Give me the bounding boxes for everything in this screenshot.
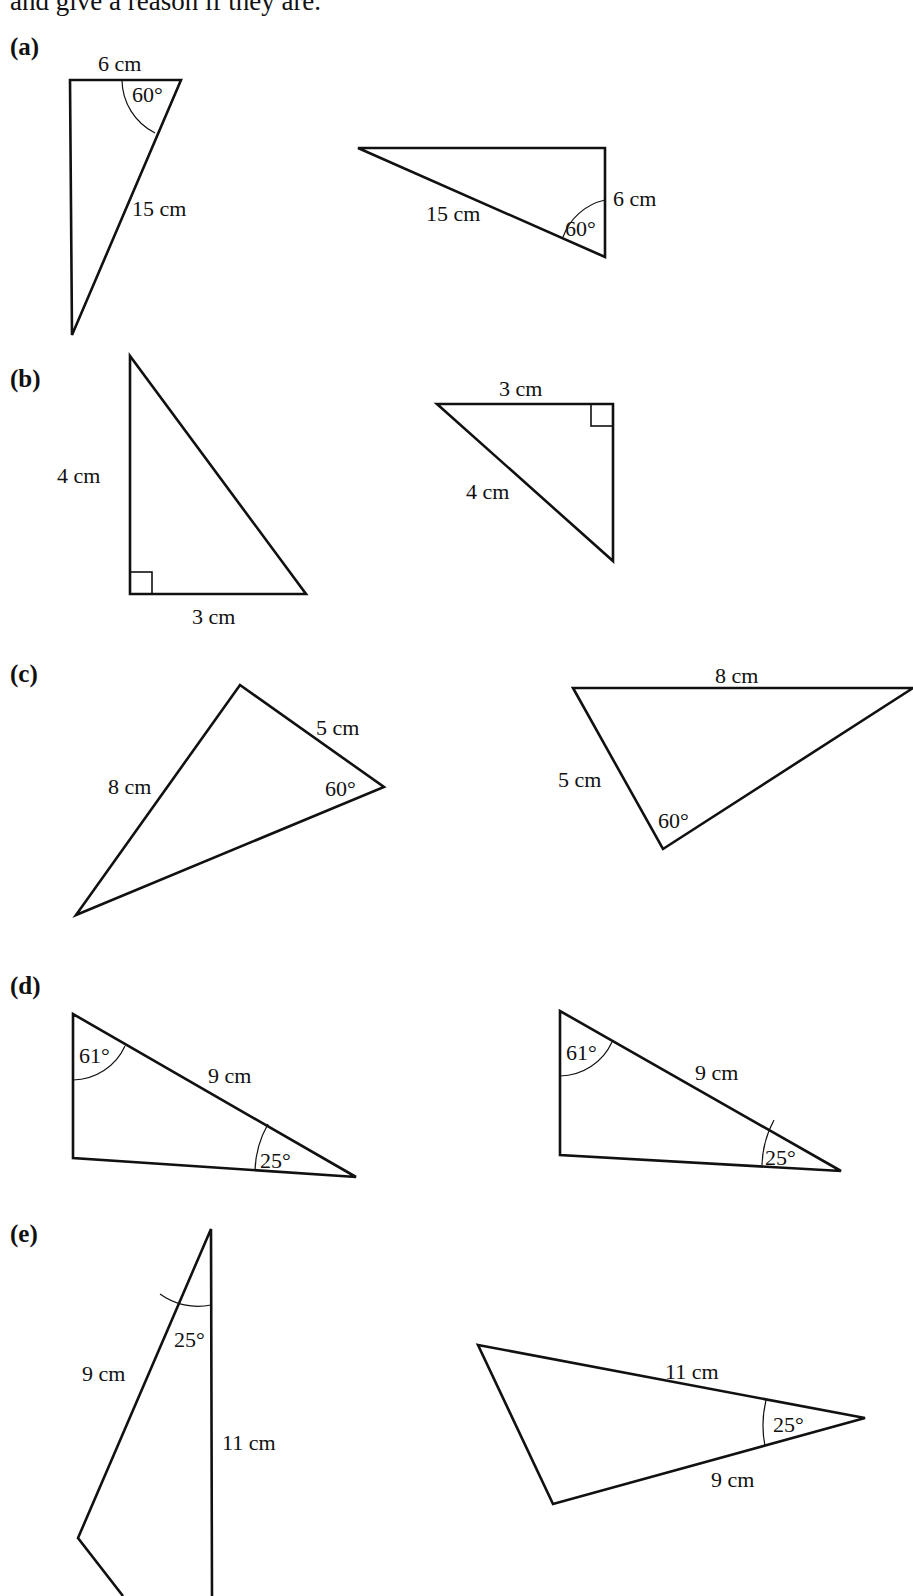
angle-a-right: 60° [565,216,596,241]
label-b-left-vertical: 4 cm [57,463,100,488]
label-a-left-slant: 15 cm [132,196,186,221]
label-a-left-top: 6 cm [98,51,141,76]
triangle-b-left: 4 cm 3 cm [57,356,306,629]
triangle-a-left: 6 cm 60° 15 cm [70,51,186,335]
label-b-left-bottom: 3 cm [192,604,235,629]
triangle-b-right: 3 cm 4 cm [437,376,613,561]
label-d-left-hyp: 9 cm [208,1063,251,1088]
angle-d-left-top: 61° [79,1043,110,1068]
angle-d-right-top-text: 61° [566,1040,597,1065]
angle-e-right: 25° [773,1412,804,1437]
triangle-a-right: 6 cm 15 cm 60° [358,148,656,257]
label-e-left-right: 11 cm [222,1430,276,1455]
label-c-right-top: 8 cm [715,663,758,688]
angle-c-left: 60° [325,776,356,801]
label-c-right-left: 5 cm [558,767,601,792]
label-d-right-hyp: 9 cm [695,1060,738,1085]
label-e-left-left: 9 cm [82,1361,125,1386]
triangle-figures: 6 cm 60° 15 cm 6 cm 15 cm 60° 4 cm 3 cm … [0,0,913,1596]
angle-a-left: 60° [132,82,163,107]
label-a-right-slant: 15 cm [426,201,480,226]
label-e-right-top: 11 cm [665,1359,719,1384]
triangle-d-left: 61° 9 cm 25° [73,1014,356,1177]
triangle-c-right: 8 cm 5 cm 60° [558,663,913,849]
triangle-c-left: 5 cm 8 cm 60° [76,685,384,915]
triangle-e-right: 11 cm 25° 9 cm [478,1345,865,1504]
angle-c-right: 60° [658,808,689,833]
label-a-right-side: 6 cm [613,186,656,211]
angle-d-right-right: 25° [765,1145,796,1170]
label-b-right-slant: 4 cm [466,479,509,504]
label-c-left-left: 8 cm [108,774,151,799]
triangle-d-right: 61° 9 cm 25° [560,1011,841,1171]
label-e-right-bottom: 9 cm [711,1467,754,1492]
angle-e-left-top: 25° [174,1327,205,1352]
triangle-e-left: 25° 9 cm 11 cm [78,1229,276,1596]
label-b-right-top: 3 cm [499,376,542,401]
label-c-left-right: 5 cm [316,715,359,740]
angle-d-left-right: 25° [260,1148,291,1173]
